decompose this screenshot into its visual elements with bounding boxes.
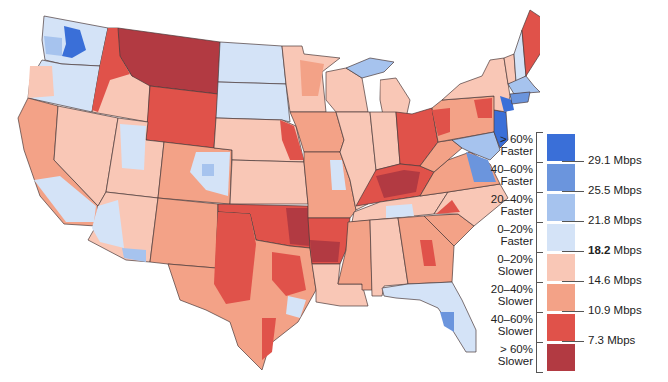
legend-bin-label: 0–20%Slower [463,253,533,277]
legend-bracket [536,222,543,253]
state-connecticut-ri [510,92,530,104]
legend-swatch [547,164,575,191]
legend-tick [562,311,584,312]
region-slc [120,124,146,170]
legend-tick [562,161,584,162]
legend-swatch [547,194,575,221]
state-kansas [230,160,308,204]
legend-threshold-21-8: 21.8 Mbps [588,214,642,226]
legend-bracket [536,312,543,343]
legend-bracket [536,282,543,313]
legend-threshold-25-5: 25.5 Mbps [588,184,642,196]
legend-bin-slower-40-60: 40–60%Slower [478,312,668,342]
legend-bin-label: 40–60%Slower [463,313,533,337]
legend-threshold-7-3: 7.3 Mbps [588,334,635,346]
region-tampa [440,312,454,332]
legend-tick [562,251,584,252]
legend-swatch [547,344,575,371]
legend-tick [562,281,584,282]
legend-bin-label: 0–20%Faster [463,223,533,247]
legend-bin-label: 20–40%Faster [463,193,533,217]
legend-swatch [547,314,575,341]
legend-tick [562,341,584,342]
legend-bracket [536,132,543,163]
legend-bracket [536,252,543,283]
legend-tick [562,221,584,222]
legend-bracket [536,162,543,193]
state-south-dakota [216,82,290,122]
legend-bin-label: 40–60%Faster [463,163,533,187]
legend-tick [562,191,584,192]
legend-threshold-14-6: 14.6 Mbps [588,274,642,286]
region-w-oregon [28,66,54,98]
lake-michigan [368,78,380,116]
state-florida [382,282,476,352]
region-olympia [44,36,62,56]
region-w-texas [214,212,256,304]
legend-threshold-18-2-baseline: 18.2 Mbps [588,244,642,256]
legend-bin-slower-60-plus: > 60%Slower [478,342,668,372]
legend-bracket [536,342,543,373]
region-nashville [386,204,414,218]
region-denver-core [202,164,214,176]
region-tulsa [286,208,310,246]
legend-bin-label: 20–40%Slower [463,283,533,307]
state-wyoming [146,86,218,148]
legend-swatch [547,254,575,281]
speed-legend: > 60%Faster 40–60%Faster 20–40%Faster 0–… [478,130,668,380]
legend-swatch [547,224,575,251]
legend-bracket [536,192,543,223]
legend-swatch [547,134,575,161]
region-s-arkansas [310,240,340,262]
legend-threshold-29-1: 29.1 Mbps [588,154,642,166]
state-north-dakota [218,42,286,84]
legend-bin-label: > 60%Faster [463,133,533,157]
legend-swatch [547,284,575,311]
us-speed-map [0,0,540,382]
legend-threshold-10-9: 10.9 Mbps [588,304,642,316]
state-new-mexico [150,198,218,268]
legend-bin-label: > 60%Slower [463,343,533,367]
